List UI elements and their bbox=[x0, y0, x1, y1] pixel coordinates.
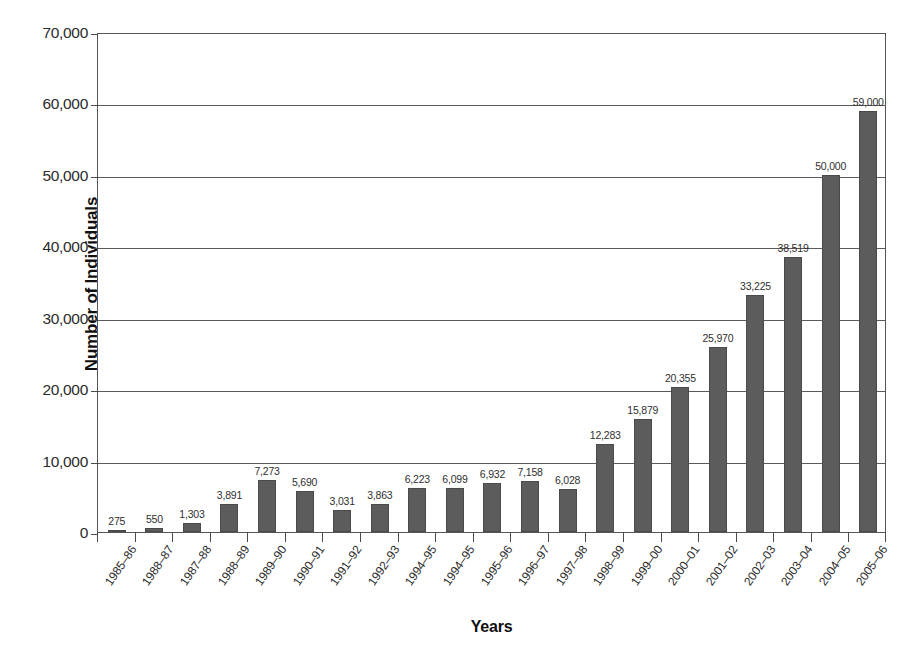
bar-value-label: 6,099 bbox=[442, 473, 467, 485]
x-axis-title: Years bbox=[97, 618, 886, 636]
bar-slot[interactable]: 3,031 bbox=[323, 34, 361, 532]
bar-value-label: 33,225 bbox=[740, 280, 771, 292]
bar-slot[interactable]: 38,519 bbox=[774, 34, 812, 532]
x-axis-tick-label: 1985–86 bbox=[102, 543, 139, 588]
bar-value-label: 38,519 bbox=[778, 242, 809, 254]
bar[interactable] bbox=[296, 491, 314, 532]
bar-value-label: 3,891 bbox=[217, 489, 242, 501]
y-axis-tick-label: 0 bbox=[0, 524, 88, 542]
bar-chart-figure: Number of Individuals 010,00020,00030,00… bbox=[0, 0, 906, 656]
x-axis-tick-label: 2003–04 bbox=[778, 543, 815, 588]
x-tick-mark bbox=[585, 533, 586, 542]
bar-value-label: 275 bbox=[108, 515, 125, 527]
bar[interactable] bbox=[333, 510, 351, 532]
bar-slot[interactable]: 7,158 bbox=[511, 34, 549, 532]
y-tick-mark bbox=[91, 320, 98, 321]
x-tick-mark bbox=[322, 533, 323, 542]
bar[interactable] bbox=[408, 488, 426, 532]
y-tick-mark bbox=[91, 177, 98, 178]
bar[interactable] bbox=[371, 504, 389, 532]
x-axis-tick-label: 1998–99 bbox=[590, 543, 627, 588]
x-axis-tick-marks bbox=[97, 533, 886, 543]
x-tick-mark bbox=[848, 533, 849, 542]
bar-value-label: 3,863 bbox=[367, 489, 392, 501]
bar-slot[interactable]: 50,000 bbox=[812, 34, 850, 532]
bar-slot[interactable]: 550 bbox=[136, 34, 174, 532]
bar-slot[interactable]: 20,355 bbox=[662, 34, 700, 532]
bar[interactable] bbox=[822, 175, 840, 532]
bar-slot[interactable]: 59,000 bbox=[849, 34, 887, 532]
y-axis-tick-label: 10,000 bbox=[0, 453, 88, 471]
x-tick-mark bbox=[360, 533, 361, 542]
bar-slot[interactable]: 6,028 bbox=[549, 34, 587, 532]
x-tick-mark bbox=[435, 533, 436, 542]
bar-slot[interactable]: 6,099 bbox=[436, 34, 474, 532]
bar-slot[interactable]: 33,225 bbox=[737, 34, 775, 532]
bar[interactable] bbox=[483, 483, 501, 533]
bar-slot[interactable]: 6,223 bbox=[399, 34, 437, 532]
y-axis-tick-label: 50,000 bbox=[0, 167, 88, 185]
x-tick-mark bbox=[698, 533, 699, 542]
x-tick-mark bbox=[210, 533, 211, 542]
bar[interactable] bbox=[559, 489, 577, 532]
bar[interactable] bbox=[709, 347, 727, 533]
bar-slot[interactable]: 25,970 bbox=[699, 34, 737, 532]
x-tick-mark bbox=[548, 533, 549, 542]
bar-slot[interactable]: 15,879 bbox=[624, 34, 662, 532]
y-tick-mark bbox=[91, 248, 98, 249]
bar[interactable] bbox=[521, 481, 539, 532]
bar-slot[interactable]: 7,273 bbox=[248, 34, 286, 532]
bar-slot[interactable]: 1,303 bbox=[173, 34, 211, 532]
bar[interactable] bbox=[784, 257, 802, 532]
x-tick-mark bbox=[510, 533, 511, 542]
bar-value-label: 7,273 bbox=[254, 465, 279, 477]
x-axis-tick-label: 2002–03 bbox=[741, 543, 778, 588]
x-tick-mark bbox=[97, 533, 98, 542]
x-tick-mark bbox=[473, 533, 474, 542]
x-axis-tick-label: 1996–97 bbox=[515, 543, 552, 588]
bar-slot[interactable]: 275 bbox=[98, 34, 136, 532]
x-axis-tick-label: 1990–91 bbox=[290, 543, 327, 588]
bar-value-label: 12,283 bbox=[590, 429, 621, 441]
y-tick-mark bbox=[91, 463, 98, 464]
x-axis-tick-label: 1994–95 bbox=[440, 543, 477, 588]
bar-value-label: 20,355 bbox=[665, 372, 696, 384]
x-axis-tick-label: 2000–01 bbox=[665, 543, 702, 588]
x-axis-tick-labels: 1985–861988–871987–881988–891989–901990–… bbox=[97, 543, 886, 613]
bar-slot[interactable]: 3,863 bbox=[361, 34, 399, 532]
bar[interactable] bbox=[183, 523, 201, 532]
x-axis-tick-label: 1994–95 bbox=[402, 543, 439, 588]
bar[interactable] bbox=[220, 504, 238, 532]
bar-value-label: 7,158 bbox=[517, 466, 542, 478]
bar[interactable] bbox=[258, 480, 276, 532]
bar[interactable] bbox=[746, 295, 764, 532]
x-tick-mark bbox=[811, 533, 812, 542]
bar-value-label: 1,303 bbox=[179, 508, 204, 520]
bar-value-label: 50,000 bbox=[815, 160, 846, 172]
y-axis-tick-label: 70,000 bbox=[0, 24, 88, 42]
bar[interactable] bbox=[634, 419, 652, 532]
y-axis-tick-label: 40,000 bbox=[0, 238, 88, 256]
bar-slot[interactable]: 12,283 bbox=[586, 34, 624, 532]
x-tick-mark bbox=[247, 533, 248, 542]
bar-slot[interactable]: 5,690 bbox=[286, 34, 324, 532]
bar[interactable] bbox=[108, 530, 126, 532]
bar[interactable] bbox=[446, 488, 464, 532]
y-axis-tick-label: 20,000 bbox=[0, 381, 88, 399]
x-axis-tick-label: 2001–02 bbox=[703, 543, 740, 588]
x-tick-mark bbox=[623, 533, 624, 542]
bar-slot[interactable]: 6,932 bbox=[474, 34, 512, 532]
bar[interactable] bbox=[596, 444, 614, 532]
bar[interactable] bbox=[859, 111, 877, 532]
x-axis-tick-label: 1995–96 bbox=[478, 543, 515, 588]
bar-slot[interactable]: 3,891 bbox=[211, 34, 249, 532]
bar-value-label: 5,690 bbox=[292, 476, 317, 488]
y-tick-mark bbox=[91, 34, 98, 35]
bar-value-label: 6,932 bbox=[480, 468, 505, 480]
x-axis-tick-label: 2005–06 bbox=[853, 543, 890, 588]
bar[interactable] bbox=[671, 387, 689, 532]
x-axis-tick-label: 1987–88 bbox=[177, 543, 214, 588]
x-tick-mark bbox=[773, 533, 774, 542]
x-tick-mark bbox=[135, 533, 136, 542]
bar[interactable] bbox=[145, 528, 163, 532]
